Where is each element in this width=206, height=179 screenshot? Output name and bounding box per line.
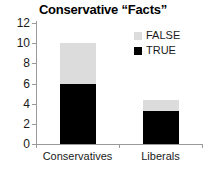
y-tick-mark (32, 84, 36, 85)
bar-segment-true[interactable] (60, 84, 96, 145)
y-tick-label: 10 (17, 37, 30, 49)
legend-item-false[interactable]: FALSE (134, 29, 180, 42)
y-tick-label: 6 (23, 78, 30, 90)
y-tick-label: 8 (23, 57, 30, 69)
x-tick-mark (119, 144, 120, 148)
y-tick-mark (32, 63, 36, 64)
legend-item-true[interactable]: TRUE (134, 44, 180, 57)
legend-label: TRUE (146, 45, 176, 56)
x-axis-line (32, 144, 202, 145)
chart-legend: FALSETRUE (134, 29, 180, 57)
chart-title: Conservative “Facts” (0, 2, 206, 17)
y-tick-mark (32, 43, 36, 44)
bar-segment-false[interactable] (143, 100, 179, 111)
x-axis-label-conservatives: Conservatives (43, 150, 113, 162)
bar-segment-false[interactable] (60, 43, 96, 83)
chart-container: Conservative “Facts” 024681012 Conservat… (0, 0, 206, 179)
x-tick-mark (36, 144, 37, 148)
y-tick-label: 0 (23, 138, 30, 150)
legend-label: FALSE (146, 30, 180, 41)
y-tick-label: 4 (23, 98, 30, 110)
y-tick-mark (32, 124, 36, 125)
y-tick-label: 12 (17, 17, 30, 29)
bar-conservatives[interactable] (60, 23, 96, 144)
y-tick-label: 2 (23, 118, 30, 130)
y-tick-mark (32, 104, 36, 105)
y-tick-mark (32, 23, 36, 24)
x-tick-mark (202, 144, 203, 148)
bar-segment-true[interactable] (143, 111, 179, 144)
legend-swatch-true-icon (134, 47, 142, 55)
legend-swatch-false-icon (134, 32, 142, 40)
x-axis-label-liberals: Liberals (141, 150, 180, 162)
